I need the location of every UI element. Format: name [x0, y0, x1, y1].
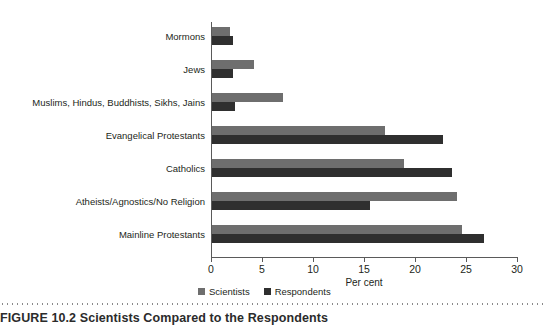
category-label-atheists-agnostics-no-religion: Atheists/Agnostics/No Religion	[76, 196, 205, 207]
category-label-mainline-protestants: Mainline Protestants	[119, 229, 205, 240]
bar-scientists-mainline-protestants	[212, 225, 462, 234]
x-axis-tick-5	[262, 257, 263, 262]
category-label-jews: Jews	[183, 64, 205, 75]
figure-caption-text: Scientists Compared to the Respondents	[80, 311, 328, 325]
x-axis-tick-30	[517, 257, 518, 262]
y-axis-line	[211, 22, 212, 257]
bar-respondents-catholics	[212, 168, 452, 177]
category-label-muslims-hindus-buddhists-sikhs-jains: Muslims, Hindus, Buddhists, Sikhs, Jains	[32, 97, 205, 108]
bar-scientists-muslims-hindus-buddhists-sikhs-jains	[212, 93, 283, 102]
bar-scientists-catholics	[212, 159, 404, 168]
x-axis-tick-15	[364, 257, 365, 262]
x-axis-tick-label-0: 0	[208, 263, 214, 275]
bar-respondents-mainline-protestants	[212, 234, 484, 243]
legend-item-respondents: Respondents	[264, 286, 331, 297]
x-axis-tick-0	[211, 257, 212, 262]
x-axis-tick-label-25: 25	[460, 263, 472, 275]
legend-label-respondents: Respondents	[275, 286, 331, 297]
bar-scientists-mormons	[212, 27, 230, 36]
legend-swatch-scientists-icon	[198, 288, 205, 295]
x-axis-tick-label-15: 15	[358, 263, 370, 275]
x-axis-tick-label-10: 10	[307, 263, 319, 275]
legend-swatch-respondents-icon	[264, 288, 271, 295]
bar-scientists-evangelical-protestants	[212, 126, 385, 135]
chart-legend: Scientists Respondents	[198, 286, 331, 297]
bar-respondents-mormons	[212, 36, 233, 45]
x-axis-tick-label-30: 30	[511, 263, 523, 275]
bar-respondents-muslims-hindus-buddhists-sikhs-jains	[212, 102, 235, 111]
figure-number: FIGURE 10.2	[0, 311, 76, 325]
x-axis-tick-20	[415, 257, 416, 262]
x-axis-tick-label-20: 20	[409, 263, 421, 275]
bar-respondents-jews	[212, 69, 233, 78]
bar-scientists-jews	[212, 60, 254, 69]
bar-respondents-atheists-agnostics-no-religion	[212, 201, 370, 210]
category-label-evangelical-protestants: Evangelical Protestants	[106, 130, 205, 141]
bar-respondents-evangelical-protestants	[212, 135, 443, 144]
category-label-mormons: Mormons	[165, 31, 205, 42]
footer-divider	[0, 303, 547, 305]
category-label-catholics: Catholics	[166, 163, 205, 174]
legend-item-scientists: Scientists	[198, 286, 250, 297]
x-axis-tick-label-5: 5	[259, 263, 265, 275]
x-axis-tick-10	[313, 257, 314, 262]
figure-caption: FIGURE 10.2 Scientists Compared to the R…	[0, 311, 547, 325]
bar-scientists-atheists-agnostics-no-religion	[212, 192, 457, 201]
x-axis-tick-25	[466, 257, 467, 262]
legend-label-scientists: Scientists	[209, 286, 250, 297]
